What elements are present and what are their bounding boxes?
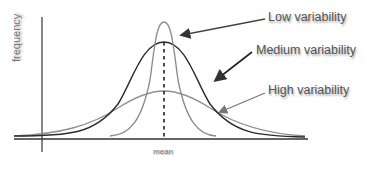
low-variability-label: Low variability (268, 10, 347, 24)
y-axis-label: frequency (10, 14, 22, 62)
x-axis-label-mean: mean (153, 147, 173, 156)
high-variability-label: High variability (268, 83, 349, 97)
medium-variability-label: Medium variability (256, 43, 356, 57)
low-variability-arrow (182, 19, 265, 35)
high-variability-arrow (220, 93, 265, 112)
low-variability-curve (110, 22, 216, 136)
medium-variability-arrow (216, 52, 252, 80)
high-variability-curve (14, 91, 305, 136)
